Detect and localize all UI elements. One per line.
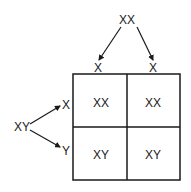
punnett-square-diagram: XX X X XY X Y XX XX XY XY: [0, 0, 191, 192]
cell-r1-c1: XX: [93, 96, 109, 110]
left-gamete-top: X: [62, 98, 70, 112]
top-gamete-left: X: [94, 61, 102, 75]
top-arrow-left: [99, 27, 121, 60]
top-gamete-right: X: [149, 61, 157, 75]
top-arrow-right: [137, 27, 153, 60]
left-arrow-bottom: [30, 130, 60, 147]
top-parent-label: XX: [119, 13, 135, 27]
cell-r2-c2: XY: [145, 148, 161, 162]
cell-r1-c2: XX: [145, 96, 161, 110]
cell-r2-c1: XY: [93, 148, 109, 162]
left-gamete-bottom: Y: [62, 144, 70, 158]
left-arrow-top: [30, 106, 60, 124]
left-parent-label: XY: [14, 120, 30, 134]
